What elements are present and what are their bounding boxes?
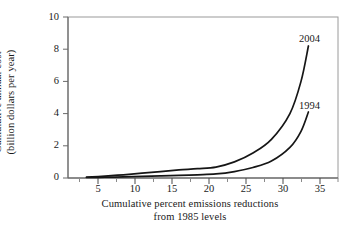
y-axis-ticks [63,17,68,178]
x-axis-label-line1: Cumulative percent emissions reductions [40,198,340,211]
x-axis-label-line2: from 1985 levels [40,211,340,224]
x-axis-major-ticks [98,178,320,184]
chart-figure: Cumulative annual cost (billion dollars … [0,0,356,234]
series-line-2004 [86,46,308,177]
series-label-2004: 2004 [299,34,320,45]
series-line-1994 [86,112,308,178]
plot-frame [68,17,338,178]
x-axis-label: Cumulative percent emissions reductions … [40,198,340,223]
series-label-1994: 1994 [299,101,320,112]
